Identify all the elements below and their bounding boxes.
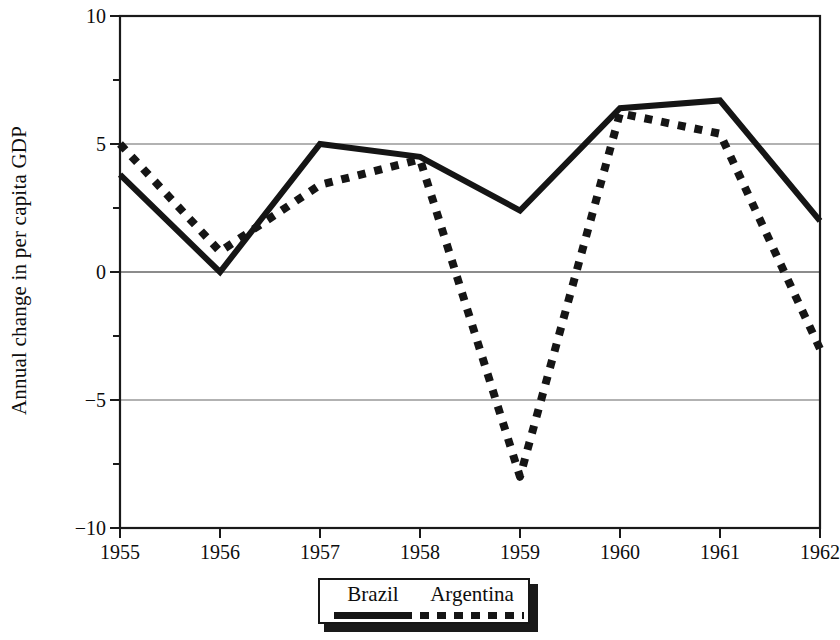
x-tick-label: 1962 [800, 542, 840, 562]
legend-box: BrazilArgentina [318, 578, 530, 624]
legend-swatch-dotted [420, 612, 524, 619]
axis-ticks [110, 16, 820, 538]
legend-label: Brazil [334, 584, 412, 605]
x-tick-label: 1957 [300, 542, 340, 562]
x-tick-label: 1960 [600, 542, 640, 562]
legend-entry-argentina: Argentina [420, 584, 524, 619]
x-tick-label: 1956 [200, 542, 240, 562]
legend-swatch-solid [334, 612, 412, 619]
legend-label: Argentina [420, 584, 524, 605]
x-tick-label: 1961 [700, 542, 740, 562]
series-line-argentina [120, 113, 820, 477]
legend: BrazilArgentina [318, 578, 532, 626]
x-tick-label: 1955 [100, 542, 140, 562]
x-axis-tick-labels: 19551956195719581959196019611962 [0, 534, 830, 568]
legend-entry-brazil: Brazil [334, 584, 412, 619]
x-tick-label: 1959 [500, 542, 540, 562]
data-series-layer [120, 100, 820, 476]
x-tick-label: 1958 [400, 542, 440, 562]
